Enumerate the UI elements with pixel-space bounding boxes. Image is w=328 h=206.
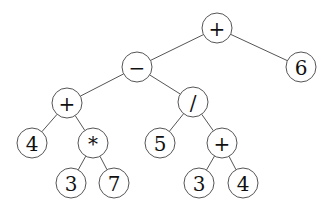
tree-node: 3 — [184, 168, 214, 198]
tree-edge — [150, 75, 181, 94]
tree-node: 7 — [99, 168, 129, 198]
tree-node: + — [202, 13, 232, 43]
tree-edge — [229, 156, 236, 169]
tree-node: + — [52, 88, 82, 118]
node-label: − — [129, 56, 146, 80]
node-label: + — [209, 17, 226, 41]
node-label: 5 — [154, 132, 167, 156]
node-label: + — [59, 92, 76, 116]
tree-node: − — [122, 52, 152, 82]
tree-node: 3 — [56, 168, 86, 198]
node-label: 4 — [26, 132, 39, 156]
tree-node: 4 — [17, 128, 47, 158]
tree-node: 4 — [228, 168, 258, 198]
tree-edge — [80, 74, 123, 96]
tree-node: 5 — [145, 128, 175, 158]
tree-edge — [78, 156, 86, 170]
node-label: * — [88, 132, 98, 156]
tree-node: / — [178, 87, 208, 117]
tree-edge — [206, 156, 214, 170]
node-label: / — [190, 91, 197, 115]
node-label: 6 — [295, 56, 308, 80]
tree-node: 6 — [286, 52, 316, 82]
tree-nodes: +−6+/4*5+3734 — [17, 13, 316, 198]
tree-edge — [42, 114, 57, 131]
tree-node: + — [207, 128, 237, 158]
node-label: 3 — [193, 172, 206, 196]
expression-tree: +−6+/4*5+3734 — [0, 0, 328, 206]
tree-edge — [202, 114, 214, 131]
node-label: 3 — [65, 172, 78, 196]
tree-edge — [150, 35, 203, 61]
tree-edge — [231, 34, 288, 60]
tree-edge — [100, 156, 107, 169]
node-label: 4 — [237, 172, 250, 196]
node-label: 7 — [108, 172, 121, 196]
tree-node: * — [78, 128, 108, 158]
tree-edge — [75, 116, 85, 131]
node-label: + — [214, 132, 231, 156]
tree-edge — [169, 114, 183, 132]
